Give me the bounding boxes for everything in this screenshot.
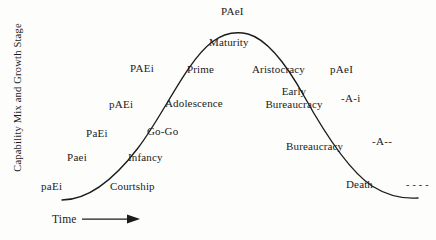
stage-label-infancy: Infancy	[128, 151, 163, 164]
code-label-paEi: paEi	[41, 180, 62, 193]
code-label-A--: -A--	[372, 135, 392, 148]
stage-label-death: Death	[346, 178, 373, 191]
stage-label-prime: Prime	[187, 63, 214, 76]
code-label-pAEi: pAEi	[109, 98, 133, 111]
stage-label-early-bureaucracy-line1: Early	[258, 85, 330, 98]
code-label-A-i: -A-i	[341, 92, 361, 105]
code-label-pAeI: pAeI	[330, 63, 353, 76]
code-label-PaEi: PaEi	[86, 127, 108, 140]
stage-label-maturity: Maturity	[209, 36, 249, 49]
code-label-PAEi: PAEi	[130, 62, 154, 75]
stage-label-aristocracy: Aristocracy	[252, 63, 305, 76]
stage-label-early-bureaucracy: Early Bureaucracy	[258, 85, 330, 112]
stage-label-bureaucracy: Bureaucracy	[286, 140, 343, 153]
stage-label-early-bureaucracy-line2: Bureaucracy	[258, 98, 330, 111]
y-axis-label: Capability Mix and Growth Stage	[12, 3, 23, 193]
code-label-Paei: Paei	[67, 151, 87, 164]
time-arrow-head	[127, 215, 140, 224]
x-axis-label: Time	[52, 213, 77, 225]
stage-label-courtship: Courtship	[110, 180, 155, 193]
corporate-lifecycle-diagram: Capability Mix and Growth Stage Time paE…	[0, 0, 436, 240]
bell-curve-path	[62, 33, 418, 200]
stage-label-go-go: Go-Go	[147, 125, 178, 138]
code-label-dashes: - - - -	[406, 179, 429, 191]
stage-label-adolescence: Adolescence	[165, 97, 223, 110]
code-label-PAeI: PAeI	[221, 5, 244, 18]
